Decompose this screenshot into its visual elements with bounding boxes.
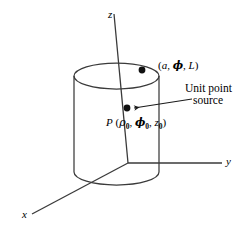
- source-label-close: ): [163, 116, 167, 128]
- source-point-label: P (ρ0, ϕ0, z0): [106, 117, 166, 128]
- rim-point-label: (a, ϕ, L): [158, 60, 198, 71]
- z-axis-label: z: [108, 9, 112, 20]
- rim-label-phi: ϕ: [173, 59, 183, 72]
- source-label-z-sub: 0: [159, 122, 163, 131]
- axes-group: [32, 14, 222, 214]
- source-point-dot: [124, 105, 131, 112]
- callout-unit-point-line2: source: [193, 95, 223, 107]
- x-axis: [32, 163, 128, 214]
- x-axis-label: x: [22, 209, 27, 220]
- callout-unit-point-line1: Unit point: [185, 83, 232, 95]
- rim-point-dot: [139, 67, 146, 74]
- cylinder-diagram: z y x (a, ϕ, L) P (ρ0, ϕ0, z0) Unit poin…: [0, 0, 250, 235]
- cylinder-bottom-front-arc: [74, 172, 159, 185]
- rim-label-close: ): [195, 59, 199, 71]
- y-axis-label: y: [226, 156, 231, 167]
- callout-leader-line: [134, 99, 192, 108]
- source-label-phi-sub: 0: [145, 122, 149, 131]
- source-label-rho: ρ: [119, 116, 125, 129]
- source-label-rho-sub: 0: [126, 122, 130, 131]
- cylinder-top-rim: [74, 63, 159, 89]
- source-label-P: P: [106, 116, 113, 128]
- source-label-phi: ϕ: [135, 116, 145, 129]
